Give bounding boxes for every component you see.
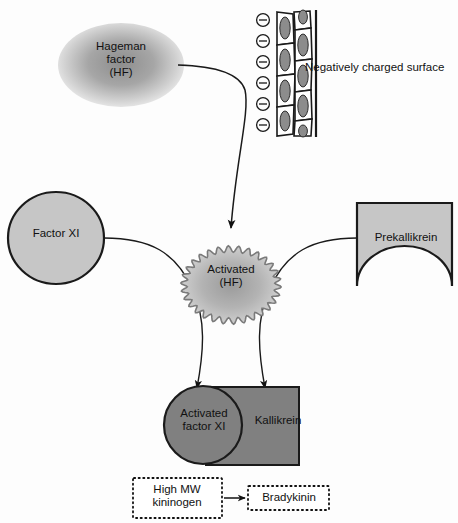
diagram-canvas: Hageman factor (HF) Negatively charged s… bbox=[0, 0, 458, 523]
hageman-factor-shape bbox=[58, 23, 184, 107]
activated-hf-shape bbox=[181, 246, 281, 324]
negative-charge-symbols bbox=[257, 14, 270, 132]
prekallikrein-shape bbox=[357, 203, 452, 286]
edge-prekallikrein-to-kallikrein bbox=[259, 238, 357, 388]
edge-hf-to-activated bbox=[178, 65, 246, 228]
activated-factor-xi-shape bbox=[164, 386, 242, 464]
edge-factorxi-to-activated-fxi bbox=[104, 238, 203, 388]
endothelial-wall-shape bbox=[257, 10, 316, 137]
high-mw-kininogen-box bbox=[133, 478, 222, 518]
factor-xi-shape bbox=[8, 192, 104, 284]
bradykinin-box bbox=[248, 486, 329, 510]
diagram-graphics bbox=[0, 0, 458, 523]
